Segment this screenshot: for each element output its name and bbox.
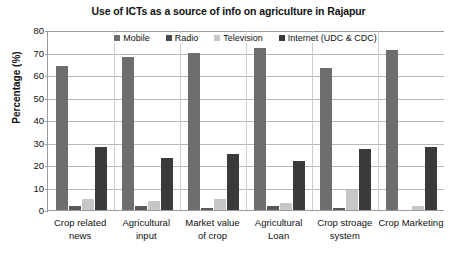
x-tick-label-line: Crop related (47, 217, 113, 230)
x-axis-labels: Crop relatednewsAgriculturalinputMarket … (47, 213, 444, 253)
bar (56, 66, 68, 210)
legend-item[interactable]: Radio (165, 33, 200, 43)
bar-group (378, 31, 444, 210)
legend-label: Television (223, 33, 263, 43)
bar-group (180, 31, 246, 210)
bar (267, 206, 279, 211)
x-tick-label: Crop stroagesystem (312, 213, 378, 253)
y-tick-label: 60 (2, 71, 44, 81)
bar (386, 50, 398, 210)
bar (280, 203, 292, 210)
x-tick-label: Market valueof crop (179, 213, 245, 253)
bar (425, 147, 437, 210)
y-tick-label: 30 (2, 139, 44, 149)
y-tick-label: 40 (2, 116, 44, 126)
y-tick-mark (45, 211, 48, 212)
x-tick-label-line: news (47, 230, 113, 243)
x-tick-label-line: Market value (179, 217, 245, 230)
legend-swatch-icon (114, 35, 120, 41)
y-tick-label: 80 (2, 26, 44, 36)
bar-group (246, 31, 312, 210)
bar-group (312, 31, 378, 210)
chart-legend: MobileRadioTelevisionInternet (UDC & CDC… (47, 33, 444, 43)
x-tick-label-line: input (113, 230, 179, 243)
x-tick-label-line: Crop stroage (312, 217, 378, 230)
bar (161, 158, 173, 210)
legend-item[interactable]: Internet (UDC & CDC) (278, 33, 378, 43)
bar (227, 154, 239, 210)
legend-label: Mobile (123, 33, 150, 43)
x-tick-label: Crop relatednews (47, 213, 113, 253)
x-tick-label: AgriculturalLoan (246, 213, 312, 253)
bar (320, 68, 332, 210)
x-tick-label-line: system (312, 230, 378, 243)
bar (346, 190, 358, 210)
bar-group (114, 31, 180, 210)
chart-container: Use of ICTs as a source of info on agric… (0, 0, 457, 256)
bar (135, 206, 147, 211)
legend-swatch-icon (214, 35, 220, 41)
y-tick-label: 20 (2, 161, 44, 171)
x-tick-label-line: of crop (179, 230, 245, 243)
bar (188, 53, 200, 211)
x-tick-label-line: Loan (246, 230, 312, 243)
y-tick-label: 70 (2, 49, 44, 59)
bar (254, 48, 266, 210)
y-tick-label: 50 (2, 94, 44, 104)
plot-area: 80706050403020100 (47, 31, 444, 211)
y-tick-label: 0 (2, 206, 44, 216)
legend-label: Radio (175, 33, 199, 43)
bar (201, 208, 213, 210)
bar (69, 206, 81, 211)
bar (214, 199, 226, 210)
bar (95, 147, 107, 210)
x-tick-label-line: Agricultural (246, 217, 312, 230)
legend-item[interactable]: Mobile (113, 33, 151, 43)
bar (333, 208, 345, 210)
bar-group (48, 31, 114, 210)
x-tick-label: Crop Marketing (378, 213, 444, 253)
bar (82, 199, 94, 210)
legend-swatch-icon (166, 35, 172, 41)
y-tick-label: 10 (2, 184, 44, 194)
legend-label: Internet (UDC & CDC) (288, 33, 377, 43)
bar (359, 149, 371, 210)
chart-title: Use of ICTs as a source of info on agric… (0, 5, 457, 17)
legend-item[interactable]: Television (213, 33, 264, 43)
bar (412, 206, 424, 211)
x-tick-label-line: Agricultural (113, 217, 179, 230)
x-tick-label: Agriculturalinput (113, 213, 179, 253)
x-tick-label-line: Crop Marketing (378, 217, 444, 230)
bar (293, 161, 305, 211)
bar (122, 57, 134, 210)
bar (148, 201, 160, 210)
bar-groups (48, 31, 444, 210)
legend-swatch-icon (279, 35, 285, 41)
